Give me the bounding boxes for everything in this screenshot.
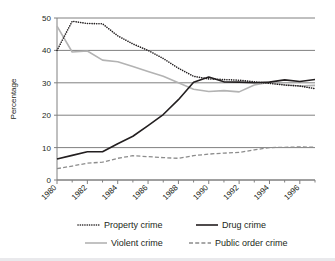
y-axis-title: Percentage	[9, 78, 18, 119]
y-tick-label: 50	[42, 14, 51, 23]
y-tick-label: 10	[42, 144, 51, 153]
legend-label: Property crime	[104, 220, 163, 230]
legend-label: Drug crime	[222, 220, 266, 230]
crime-percentage-line-chart: 01020304050 1980198219841986198819901992…	[0, 0, 335, 261]
y-tick-label: 20	[42, 111, 51, 120]
y-tick-label: 40	[42, 46, 51, 55]
y-tick-label: 30	[42, 79, 51, 88]
legend-label: Violent crime	[111, 238, 163, 248]
chart-background	[0, 0, 335, 261]
legend-label: Public order crime	[215, 238, 288, 248]
